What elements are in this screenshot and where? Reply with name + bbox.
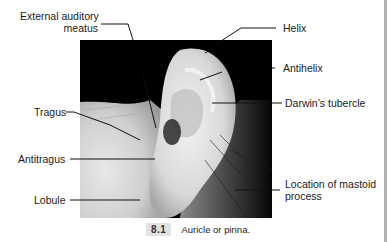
label-external-auditory-meatus-line2: meatus xyxy=(20,22,98,34)
label-tragus: Tragus xyxy=(34,106,66,118)
ear-illustration xyxy=(80,40,272,218)
label-antihelix: Antihelix xyxy=(283,62,323,74)
label-external-auditory-meatus-line1: External auditory xyxy=(20,10,98,22)
label-mastoid-line2: process xyxy=(285,190,376,202)
label-lobule: Lobule xyxy=(34,194,66,206)
ear-photograph xyxy=(80,40,272,218)
label-darwins-tubercle: Darwin’s tubercle xyxy=(285,97,365,109)
figure-caption-text: Auricle or pinna. xyxy=(181,224,250,235)
figure-number-badge: 8.1 xyxy=(146,223,171,236)
figure-caption: 8.1 Auricle or pinna. xyxy=(146,222,250,236)
label-helix: Helix xyxy=(283,22,306,34)
label-mastoid-line1: Location of mastoid xyxy=(285,178,376,190)
anatomy-figure: External auditory meatus Helix Antihelix… xyxy=(0,0,388,242)
label-mastoid-process: Location of mastoid process xyxy=(285,178,376,202)
label-external-auditory-meatus: External auditory meatus xyxy=(20,10,98,34)
page-edge-rule xyxy=(384,0,387,242)
label-antitragus: Antitragus xyxy=(18,153,65,165)
